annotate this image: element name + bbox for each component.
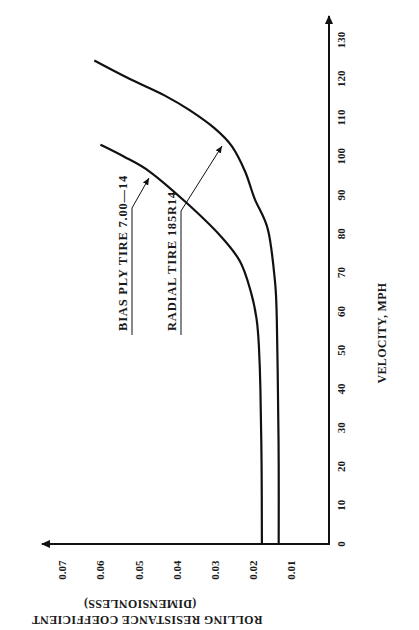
- velocity-tick-label: 30: [335, 422, 347, 434]
- velocity-tick-label: 10: [335, 499, 347, 511]
- resistance-axis-title: ROLLING RESISTANCE COEFFICIENT: [32, 613, 263, 627]
- resistance-tick-label: 0.06: [94, 560, 106, 580]
- velocity-tick-label: 50: [335, 344, 347, 356]
- velocity-tick-label: 0: [335, 541, 347, 547]
- velocity-tick-label: 130: [335, 31, 347, 48]
- radial-leader-arrow: [181, 146, 222, 211]
- resistance-tick-label: 0.01: [285, 560, 297, 579]
- velocity-tick-label: 70: [335, 267, 347, 279]
- velocity-tick-label: 110: [335, 109, 347, 125]
- velocity-tick-label: 100: [335, 148, 347, 165]
- resistance-tick-label: 0.02: [247, 560, 259, 580]
- velocity-tick-label: 20: [335, 460, 347, 472]
- bias-ply-label: BIAS PLY TIRE 7.00—14: [116, 175, 130, 331]
- resistance-tick-label: 0.05: [133, 560, 145, 580]
- velocity-tick-label: 40: [335, 383, 347, 395]
- velocity-tick-labels: 0102030405060708090100110120130: [335, 31, 347, 547]
- resistance-tick-label: 0.04: [171, 560, 183, 580]
- resistance-tick-label: 0.07: [56, 560, 68, 580]
- bias-ply-leader-arrow: [132, 178, 149, 208]
- resistance-axis-subtitle: (DIMENSIONLESS): [84, 597, 197, 611]
- velocity-tick-label: 120: [335, 70, 347, 87]
- velocity-tick-label: 60: [335, 305, 347, 317]
- resistance-tick-label: 0.03: [209, 560, 221, 580]
- rolling-resistance-chart: 0102030405060708090100110120130 0.010.02…: [0, 0, 419, 630]
- resistance-tick-labels: 0.010.020.030.040.050.060.07: [56, 560, 297, 580]
- velocity-axis-title: VELOCITY, MPH: [375, 282, 389, 383]
- velocity-tick-label: 90: [335, 189, 347, 201]
- radial-label: RADIAL TIRE 185R14: [165, 191, 179, 331]
- velocity-tick-label: 80: [335, 228, 347, 240]
